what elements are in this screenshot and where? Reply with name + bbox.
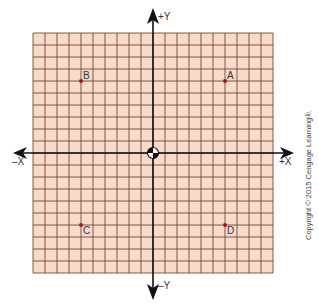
copyright-notice: Copyright © 2015 Cengage Learning®. bbox=[304, 100, 313, 240]
x-positive-label: +X bbox=[279, 157, 292, 167]
coordinate-plane bbox=[0, 0, 319, 307]
x-negative-label: –X bbox=[12, 157, 24, 167]
point-c-label: C bbox=[83, 226, 90, 236]
origin-marker-icon bbox=[148, 148, 159, 159]
y-positive-label: +Y bbox=[158, 12, 171, 22]
point-b-label: B bbox=[83, 71, 90, 81]
point-a-label: A bbox=[227, 71, 234, 81]
y-negative-label: –Y bbox=[158, 281, 170, 291]
point-d-label: D bbox=[227, 226, 234, 236]
